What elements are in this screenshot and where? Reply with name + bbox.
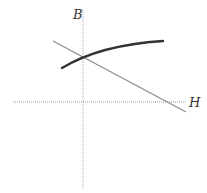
load-line [53,41,186,112]
b-axis-label: B [72,7,83,22]
h-axis-label: H [188,95,201,110]
bh-diagram: B H [0,0,207,193]
